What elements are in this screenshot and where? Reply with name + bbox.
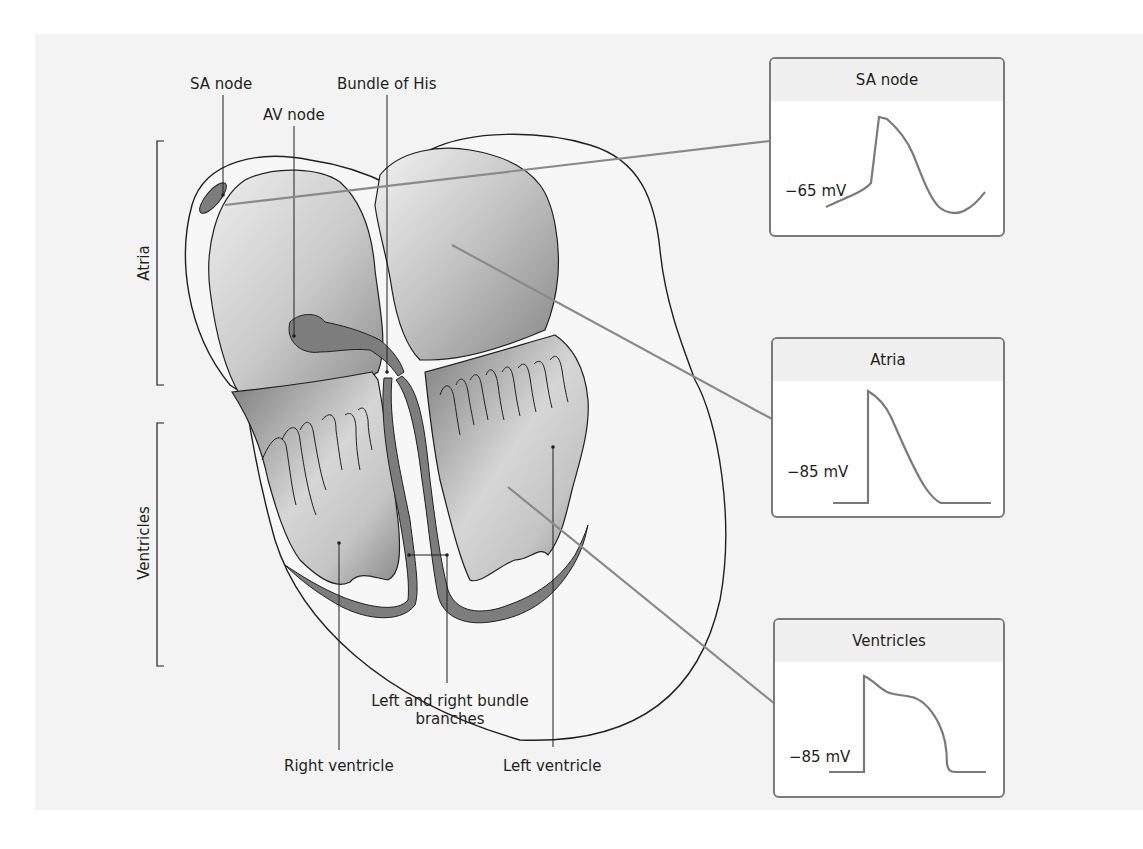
label-av-node: AV node: [263, 106, 325, 124]
ap-box-sa-node: SA node −65 mV: [769, 57, 1005, 237]
label-bundle-branches-line1: Left and right bundle: [360, 692, 540, 710]
ap-box-atria: Atria −85 mV: [771, 337, 1005, 518]
label-atria: Atria: [135, 233, 153, 293]
resting-potential: −85 mV: [787, 463, 848, 481]
ap-trace-sa-node: [771, 59, 1007, 239]
atria-bracket: [157, 141, 164, 385]
label-sa-node: SA node: [190, 75, 252, 93]
ventricles-bracket: [157, 423, 164, 666]
caption-strip-clipped: [0, 836, 1143, 849]
label-left-ventricle: Left ventricle: [503, 757, 601, 775]
resting-potential: −85 mV: [789, 748, 850, 766]
label-right-ventricle: Right ventricle: [284, 757, 394, 775]
label-bundle-branches-line2: branches: [360, 710, 540, 728]
ap-trace-atria: [773, 339, 1007, 520]
label-bundle-branches: Left and right bundle branches: [360, 692, 540, 728]
label-ventricles: Ventricles: [135, 498, 153, 588]
label-bundle-of-his: Bundle of His: [337, 75, 436, 93]
resting-potential: −65 mV: [785, 182, 846, 200]
brackets: [157, 141, 164, 666]
right-ventricle: [232, 372, 400, 584]
ap-box-ventricles: Ventricles −85 mV: [773, 618, 1005, 798]
ap-trace-ventricles: [775, 620, 1007, 800]
